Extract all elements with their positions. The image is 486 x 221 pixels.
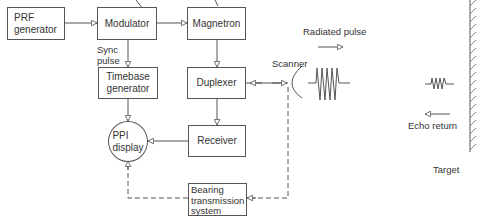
sync-pulse-label: Sync pulse bbox=[97, 44, 120, 66]
magnetron-block: Magnetron bbox=[187, 7, 246, 40]
receiver-block: Receiver bbox=[188, 125, 246, 157]
scanner-dish-icon bbox=[292, 66, 302, 98]
target-label: Target bbox=[433, 164, 459, 175]
prf-generator-block: PRF generator bbox=[7, 7, 65, 40]
ppi-display-block: PPI display bbox=[108, 121, 148, 162]
radiated-waveform-icon bbox=[308, 68, 350, 100]
modulator-block: Modulator bbox=[97, 7, 157, 40]
scanner-label: Scanner bbox=[272, 58, 307, 69]
duplexer-block: Duplexer bbox=[187, 67, 246, 99]
echo-waveform-icon bbox=[425, 78, 454, 89]
radiated-pulse-label: Radiated pulse bbox=[303, 26, 366, 37]
cutoff-line-2 bbox=[215, 0, 218, 6]
dashed-bearing-ppi bbox=[128, 162, 188, 198]
dashed-scanner-bearing bbox=[248, 87, 288, 198]
timebase-generator-block: Timebase generator bbox=[98, 67, 158, 99]
echo-return-label: Echo return bbox=[408, 120, 457, 131]
bearing-transmission-block: Bearing transmission system bbox=[188, 183, 247, 216]
target-hatching bbox=[470, 0, 476, 150]
